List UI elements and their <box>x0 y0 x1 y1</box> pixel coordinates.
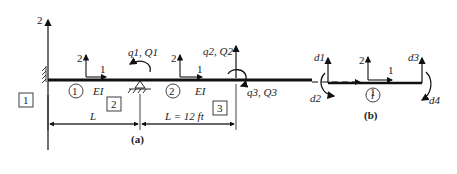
local-axis-label: 1 <box>197 63 203 75</box>
pin-support-icon <box>128 81 151 93</box>
dimension-label-span1: L <box>89 110 96 122</box>
axis-label-2: 2 <box>37 14 43 26</box>
local-axis-label: 2 <box>77 52 83 64</box>
rotation-arrow-q1-icon <box>130 61 150 72</box>
element-id: 2 <box>169 85 175 97</box>
dof-label-q1: q1, Q1 <box>128 46 158 58</box>
node-id: 2 <box>111 98 117 110</box>
local-axis-label: 2 <box>171 52 177 64</box>
rotation-arrow-q3-icon <box>228 70 246 86</box>
dof-label-d2: d2 <box>310 92 322 104</box>
local-axis-label: 2 <box>359 54 365 66</box>
caption-a: (a) <box>131 133 144 146</box>
dimension-label-span2: L = 12 ft <box>164 110 205 122</box>
node-id: 1 <box>23 94 29 106</box>
node-id: 3 <box>217 102 223 114</box>
stiffness-label: EI <box>194 85 207 97</box>
fixed-support-icon <box>42 66 46 83</box>
dof-label-q2: q2, Q2 <box>203 45 233 57</box>
dof-label-d4: d4 <box>429 94 441 106</box>
element-id: i <box>371 89 374 101</box>
element-id: 1 <box>72 85 78 97</box>
local-axis-label: 1 <box>388 64 394 76</box>
dof-label-q3: q3, Q3 <box>247 86 277 98</box>
structural-diagram: 2 1 2 1 2 1 1 EI 2 EI 1 2 <box>0 0 457 174</box>
local-axis-label: 1 <box>100 63 106 75</box>
stiffness-label: EI <box>92 85 105 97</box>
caption-b: (b) <box>364 109 378 122</box>
dof-label-d1: d1 <box>314 51 325 63</box>
dof-label-d3: d3 <box>408 51 420 63</box>
